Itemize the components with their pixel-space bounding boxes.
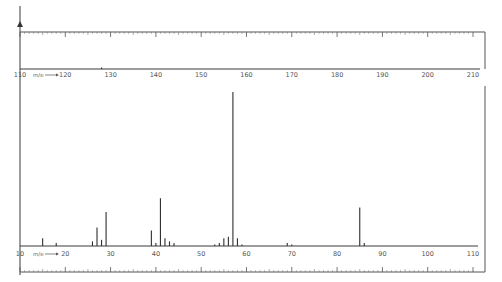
tick-label: 100 (421, 250, 433, 258)
tick-label: 170 (286, 71, 298, 79)
tick-label: 110 (14, 71, 26, 79)
tick-label: 130 (104, 71, 116, 79)
tick-label: 210 (467, 71, 479, 79)
lower-panel: 102030405060708090100110 m/e (16, 86, 485, 272)
mass-spectrum-chart: 110120130140150160170180190200210 m/e 10… (0, 0, 502, 282)
tick-label: 120 (59, 71, 71, 79)
tick-label: 30 (106, 250, 114, 258)
lower-peaks (43, 92, 365, 246)
tick-label: 110 (467, 250, 479, 258)
upper-mz-label: m/e (33, 72, 44, 78)
tick-label: 140 (150, 71, 162, 79)
tick-label: 10 (16, 250, 24, 258)
tick-label: 60 (242, 250, 250, 258)
tick-label: 50 (197, 250, 205, 258)
tick-label: 150 (195, 71, 207, 79)
tick-label: 160 (240, 71, 252, 79)
arrow-up-icon (17, 21, 23, 27)
tick-label: 40 (152, 250, 160, 258)
tick-label: 180 (331, 71, 343, 79)
upper-panel: 110120130140150160170180190200210 m/e (14, 32, 485, 79)
lower-ticks (20, 267, 473, 272)
tick-label: 20 (61, 250, 69, 258)
tick-label: 80 (333, 250, 341, 258)
tick-label: 90 (378, 250, 386, 258)
lower-mz-label: m/e (33, 251, 44, 257)
tick-label: 190 (376, 71, 388, 79)
upper-ticks (20, 32, 473, 37)
lower-tick-labels: 102030405060708090100110 (16, 250, 479, 258)
tick-label: 70 (288, 250, 296, 258)
tick-label: 200 (421, 71, 433, 79)
upper-tick-labels: 110120130140150160170180190200210 (14, 71, 479, 79)
